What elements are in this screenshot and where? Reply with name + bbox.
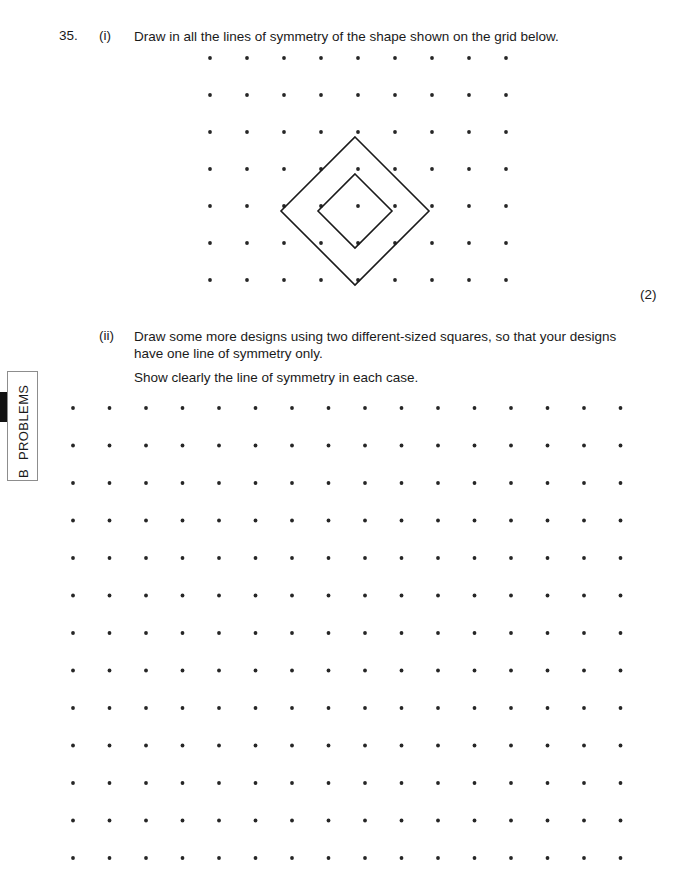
grid-dot xyxy=(181,406,185,410)
grid-dot xyxy=(245,56,249,60)
grid-dot xyxy=(509,744,513,748)
grid-dot xyxy=(71,669,75,673)
grid-dot xyxy=(319,130,323,134)
grid-dots-bottom xyxy=(71,406,622,860)
grid-dot xyxy=(400,556,404,560)
section-tab: B PROBLEMS xyxy=(7,371,38,481)
grid-dot xyxy=(467,278,471,282)
grid-dot xyxy=(619,819,623,823)
grid-dot xyxy=(619,631,623,635)
grid-dot xyxy=(181,519,185,523)
grid-dot xyxy=(327,519,331,523)
grid-dot xyxy=(430,167,434,171)
grid-dot xyxy=(254,594,258,598)
grid-dot xyxy=(509,819,513,823)
grid-dot xyxy=(144,631,148,635)
grid-dot xyxy=(363,481,367,485)
grid-dot xyxy=(254,556,258,560)
grid-dot xyxy=(245,167,249,171)
grid-dot xyxy=(400,706,404,710)
grid-dot xyxy=(509,781,513,785)
part-i-instruction: Draw in all the lines of symmetry of the… xyxy=(134,28,634,46)
grid-dot xyxy=(546,556,550,560)
grid-dot xyxy=(108,744,112,748)
grid-dot xyxy=(254,631,258,635)
grid-dot xyxy=(509,856,513,860)
grid-dot xyxy=(108,856,112,860)
grid-dot xyxy=(254,519,258,523)
grid-dot xyxy=(144,481,148,485)
grid-dot xyxy=(290,481,294,485)
concentric-diamonds xyxy=(281,137,429,285)
grid-dot xyxy=(108,819,112,823)
grid-dot xyxy=(546,781,550,785)
part-ii-sub-instruction: Show clearly the line of symmetry in eac… xyxy=(134,369,632,386)
section-tab-inner: B PROBLEMS xyxy=(8,372,39,482)
grid-dot xyxy=(290,856,294,860)
grid-dot xyxy=(71,556,75,560)
grid-dot xyxy=(582,819,586,823)
grid-dot xyxy=(473,856,477,860)
grid-dot xyxy=(363,669,367,673)
grid-dot xyxy=(473,669,477,673)
grid-dot xyxy=(356,167,360,171)
grid-dot xyxy=(546,519,550,523)
grid-dot xyxy=(282,241,286,245)
grid-dot xyxy=(217,556,221,560)
grid-dot xyxy=(430,56,434,60)
grid-dot xyxy=(356,93,360,97)
grid-dot xyxy=(467,93,471,97)
grid-dot xyxy=(546,481,550,485)
grid-dot xyxy=(473,631,477,635)
grid-dot xyxy=(181,669,185,673)
grid-dot xyxy=(71,781,75,785)
grid-dot xyxy=(546,594,550,598)
grid-dot xyxy=(208,93,212,97)
grid-dot xyxy=(509,481,513,485)
grid-dot xyxy=(208,130,212,134)
grid-dot xyxy=(290,594,294,598)
grid-dot xyxy=(181,706,185,710)
grid-dot xyxy=(290,444,294,448)
grid-dot xyxy=(245,204,249,208)
grid-dot xyxy=(619,444,623,448)
grid-dot xyxy=(467,130,471,134)
grid-dot xyxy=(217,706,221,710)
grid-dot xyxy=(619,856,623,860)
grid-dot xyxy=(467,204,471,208)
grid-dot xyxy=(290,519,294,523)
grid-dot xyxy=(546,856,550,860)
grid-dot xyxy=(254,781,258,785)
grid-dot xyxy=(400,444,404,448)
grid-dot xyxy=(400,856,404,860)
section-tab-label: PROBLEMS xyxy=(16,385,31,460)
grid-dot xyxy=(144,669,148,673)
grid-dot xyxy=(393,130,397,134)
grid-dot xyxy=(363,781,367,785)
grid-dot xyxy=(217,856,221,860)
grid-dot xyxy=(582,519,586,523)
grid-dot xyxy=(217,744,221,748)
grid-dot xyxy=(290,556,294,560)
grid-dot xyxy=(546,669,550,673)
grid-dot xyxy=(400,631,404,635)
grid-dots-top xyxy=(208,56,508,282)
grid-dot xyxy=(217,406,221,410)
grid-dot xyxy=(108,631,112,635)
grid-dot xyxy=(619,781,623,785)
grid-dot xyxy=(504,167,508,171)
answer-dot-grid xyxy=(55,395,655,885)
grid-dot xyxy=(327,706,331,710)
grid-dot xyxy=(400,819,404,823)
grid-dot xyxy=(290,631,294,635)
grid-dot xyxy=(108,406,112,410)
grid-dot xyxy=(430,93,434,97)
question-number: 35. xyxy=(59,28,78,43)
grid-dot xyxy=(290,706,294,710)
grid-dot xyxy=(393,56,397,60)
grid-dot xyxy=(208,278,212,282)
grid-dot xyxy=(71,444,75,448)
grid-dot xyxy=(327,781,331,785)
grid-dot xyxy=(254,856,258,860)
grid-dot xyxy=(327,444,331,448)
